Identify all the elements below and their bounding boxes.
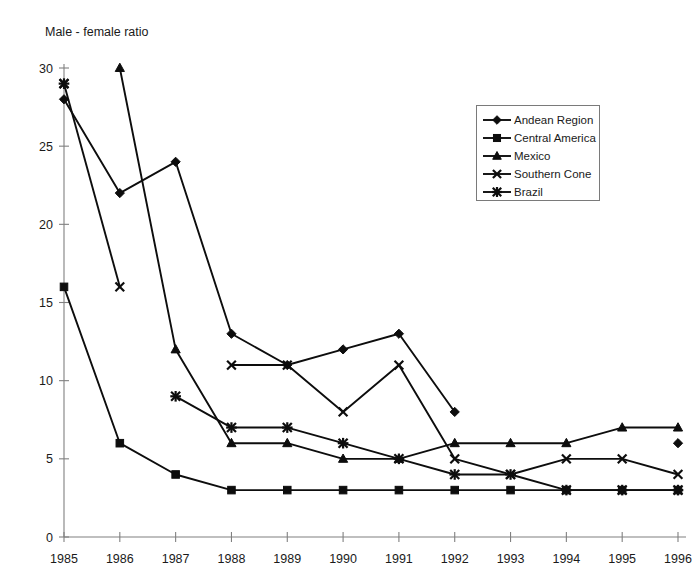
y-tick-label: 0	[46, 531, 53, 545]
y-tick-label: 10	[39, 374, 53, 388]
x-tick-label: 1988	[218, 552, 246, 566]
legend-item-southern-cone[interactable]: Southern Cone	[482, 165, 595, 183]
chart-plot-area: 051015202530 198519861987198819891990199…	[0, 0, 696, 588]
point-square	[395, 486, 403, 494]
point-asterisk	[449, 469, 460, 480]
asterisk-marker-icon	[482, 184, 512, 200]
point-square	[60, 283, 68, 291]
point-asterisk	[59, 78, 70, 89]
legend-item-label: Andean Region	[514, 112, 593, 128]
point-asterisk	[505, 469, 516, 480]
legend-item-label: Central America	[514, 130, 596, 146]
point-asterisk	[338, 438, 349, 449]
x-tick-label: 1987	[162, 552, 190, 566]
x-tick-label: 1989	[273, 552, 301, 566]
y-tick-label: 25	[39, 140, 53, 154]
point-asterisk	[394, 454, 405, 465]
legend-marker-square	[493, 134, 500, 141]
point-square	[451, 486, 459, 494]
point-diamond	[115, 188, 124, 197]
point-asterisk	[673, 485, 684, 496]
point-triangle	[171, 345, 180, 353]
series-line	[64, 84, 120, 287]
legend-item-label: Southern Cone	[514, 166, 591, 182]
point-square	[172, 471, 180, 479]
point-diamond	[171, 157, 180, 166]
legend-item-label: Brazil	[514, 184, 543, 200]
point-square	[339, 486, 347, 494]
x-tick-label: 1985	[50, 552, 78, 566]
legend-item-central-america[interactable]: Central America	[482, 129, 595, 147]
chart-legend: Andean RegionCentral AmericaMexicoSouthe…	[476, 105, 600, 201]
y-tick-label: 15	[39, 296, 53, 310]
x-tick-label: 1991	[385, 552, 413, 566]
point-asterisk	[170, 391, 181, 402]
point-asterisk	[226, 422, 237, 433]
legend-item-mexico[interactable]: Mexico	[482, 147, 595, 165]
point-square	[228, 486, 236, 494]
point-square	[116, 439, 124, 447]
legend-item-brazil[interactable]: Brazil	[482, 183, 595, 201]
triangle-marker-icon	[482, 148, 512, 164]
legend-marker-asterisk	[492, 187, 502, 197]
point-square	[507, 486, 515, 494]
legend-item-andean-region[interactable]: Andean Region	[482, 111, 595, 129]
legend-item-label: Mexico	[514, 148, 550, 164]
x-tick-label: 1996	[664, 552, 692, 566]
diamond-marker-icon	[482, 112, 512, 128]
legend-marker-diamond	[493, 116, 502, 125]
point-diamond	[673, 439, 682, 448]
square-marker-icon	[482, 130, 512, 146]
x-tick-label: 1994	[552, 552, 580, 566]
x-tick-label: 1986	[106, 552, 134, 566]
y-tick-label: 30	[39, 62, 53, 76]
x-tick-label: 1993	[497, 552, 525, 566]
x-tick-label: 1990	[329, 552, 357, 566]
x-tick-label: 1995	[608, 552, 636, 566]
point-triangle	[115, 63, 124, 71]
point-x	[395, 361, 404, 370]
point-asterisk	[617, 485, 628, 496]
y-tick-label: 5	[46, 452, 53, 466]
point-square	[284, 486, 292, 494]
point-asterisk	[561, 485, 572, 496]
point-diamond	[227, 329, 236, 338]
point-diamond	[338, 345, 347, 354]
x-marker-icon	[482, 166, 512, 182]
point-asterisk	[282, 422, 293, 433]
x-tick-label: 1992	[441, 552, 469, 566]
point-x	[339, 408, 348, 417]
y-tick-label: 20	[39, 218, 53, 232]
chart-container: Male - female ratio 051015202530 1985198…	[0, 0, 696, 588]
